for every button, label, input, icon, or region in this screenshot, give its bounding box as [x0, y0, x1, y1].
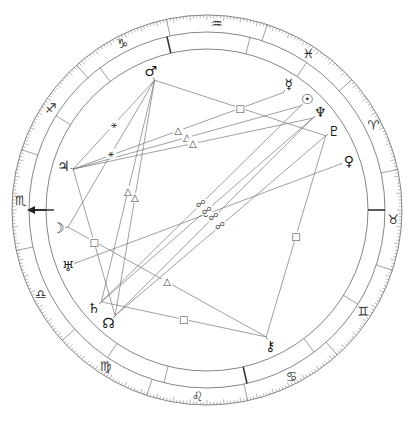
degree-tick	[316, 50, 319, 54]
degree-tick	[16, 247, 19, 248]
degree-tick	[395, 173, 398, 174]
degree-tick	[150, 24, 151, 27]
sign-libra-icon: ♎	[35, 287, 47, 302]
degree-tick	[247, 19, 248, 22]
degree-tick	[84, 58, 86, 60]
degree-tick	[170, 19, 171, 22]
degree-tick	[98, 48, 100, 50]
pluto-icon[interactable]: ♇	[328, 123, 341, 139]
sign-pisces-icon: ♓	[303, 46, 315, 61]
degree-tick	[60, 336, 62, 338]
degree-tick	[112, 39, 113, 42]
angle-cusp-line	[243, 367, 247, 384]
mercury-icon[interactable]: ☿	[284, 76, 293, 92]
degree-tick	[353, 332, 357, 335]
degree-tick	[35, 118, 38, 119]
degree-tick	[302, 375, 305, 379]
degree-tick	[25, 279, 28, 280]
degree-tick	[128, 385, 129, 388]
saturn-icon[interactable]: ♄	[88, 300, 101, 316]
sign-divider	[16, 247, 33, 251]
degree-tick	[335, 65, 337, 67]
degree-tick	[341, 72, 345, 76]
neptune-icon[interactable]: ♆	[314, 104, 327, 120]
moon-icon[interactable]: ☽	[52, 220, 65, 236]
sign-divider	[376, 265, 392, 270]
degree-tick	[43, 315, 46, 317]
degree-tick	[24, 143, 29, 145]
venus-icon[interactable]: ♀	[344, 153, 354, 169]
degree-tick	[386, 143, 391, 145]
degree-tick	[72, 70, 74, 72]
degree-tick	[157, 394, 158, 399]
uranus-icon[interactable]: ♅	[62, 258, 75, 274]
sign-divider	[62, 329, 75, 340]
degree-tick	[157, 22, 158, 27]
degree-tick	[263, 394, 264, 397]
degree-tick	[395, 247, 398, 248]
degree-tick	[92, 365, 94, 367]
house-cusp-line	[344, 295, 358, 304]
degree-tick	[95, 366, 98, 370]
degree-tick	[379, 128, 384, 130]
degree-tick	[58, 332, 62, 335]
degree-tick	[375, 115, 378, 116]
degree-tick	[58, 85, 62, 88]
degree-tick	[347, 77, 349, 79]
degree-tick	[64, 77, 66, 79]
degree-tick	[153, 395, 154, 398]
degree-tick	[380, 294, 383, 295]
degree-tick	[62, 80, 64, 82]
aspect-trine-icon: △	[174, 125, 182, 136]
degree-tick	[33, 121, 36, 122]
degree-tick	[389, 273, 392, 274]
north-node-icon[interactable]: ☊	[102, 315, 114, 331]
degree-tick	[395, 250, 398, 251]
degree-tick	[115, 380, 116, 383]
degree-tick	[122, 383, 123, 386]
jupiter-icon[interactable]: ♃	[57, 158, 70, 174]
degree-tick	[244, 19, 245, 22]
sign-aries-icon: ♈	[367, 118, 379, 133]
degree-tick	[282, 31, 283, 34]
sign-taurus-icon: ♉	[387, 212, 399, 227]
degree-tick	[32, 125, 35, 126]
degree-tick	[147, 25, 148, 28]
degree-tick	[394, 253, 397, 254]
degree-tick	[386, 279, 389, 280]
angle-cusp-line	[167, 37, 171, 54]
degree-tick	[90, 363, 92, 365]
planet-leader	[339, 163, 342, 164]
degree-tick	[325, 56, 327, 58]
degree-tick	[360, 326, 362, 328]
degree-tick	[345, 343, 347, 345]
chiron-icon[interactable]: ⚷	[265, 338, 275, 354]
degree-tick	[266, 393, 267, 396]
degree-tick	[21, 266, 24, 267]
house-cusp-line	[246, 37, 250, 53]
degree-tick	[173, 18, 174, 23]
degree-tick	[144, 26, 145, 29]
sign-divider	[244, 384, 248, 401]
aspect-square-icon: □	[291, 231, 300, 242]
degree-tick	[23, 147, 26, 148]
aspect-trine-icon: △	[124, 186, 132, 197]
degree-tick	[345, 75, 347, 77]
degree-tick	[51, 326, 53, 328]
degree-tick	[250, 397, 251, 400]
degree-tick	[338, 350, 340, 352]
sun-icon[interactable]: ☉	[301, 91, 314, 107]
degree-tick	[47, 319, 51, 322]
mars-icon[interactable]: ♂	[145, 63, 158, 79]
degree-tick	[36, 115, 39, 116]
degree-tick	[53, 90, 55, 92]
degree-tick	[134, 388, 135, 391]
degree-tick	[329, 356, 332, 360]
degree-tick	[82, 61, 85, 65]
house-cusp-line	[56, 116, 70, 125]
sign-divider	[77, 65, 88, 78]
sign-aquarius-icon: ♒	[211, 16, 223, 31]
house-cusp-line	[304, 339, 314, 353]
degree-tick	[90, 54, 92, 56]
degree-tick	[77, 353, 79, 355]
